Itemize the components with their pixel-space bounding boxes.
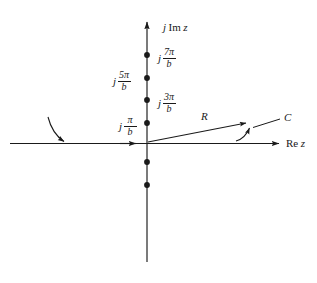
real-axis-label-z: z xyxy=(301,137,305,149)
pole-label-5pi-b-denominator: b xyxy=(121,82,128,93)
pole-label-3pi-b-fraction: 3π b xyxy=(163,92,176,114)
pole-label-5pi-b-j: j xyxy=(113,76,116,87)
pole-label-5pi-b: j 5π b xyxy=(113,70,131,92)
pole-label-pi-b: j π b xyxy=(119,115,137,137)
pole-dot-5pi-b xyxy=(144,75,150,81)
pole-dot-3pi-b xyxy=(144,97,150,103)
pole-label-3pi-b-denominator: b xyxy=(166,104,173,115)
contour-label-C: C xyxy=(284,112,291,123)
real-axis-label: Rez xyxy=(286,138,305,149)
pole-dot-lower-1 xyxy=(144,159,150,165)
imaginary-axis-label: jImz xyxy=(163,22,188,33)
pole-label-3pi-b-j: j xyxy=(158,98,161,109)
pole-dot-pi-b xyxy=(144,120,150,126)
pole-label-7pi-b-denominator: b xyxy=(166,59,173,70)
pole-label-7pi-b: j 7π b xyxy=(158,47,176,69)
pole-label-7pi-b-fraction: 7π b xyxy=(163,47,176,69)
radius-label-R: R xyxy=(201,111,208,122)
real-axis-label-op: Re xyxy=(286,137,298,149)
pole-label-3pi-b-numerator: 3π xyxy=(163,92,175,103)
pole-label-pi-b-denominator: b xyxy=(127,127,134,138)
incoming-curve-arrow xyxy=(48,117,64,142)
pole-label-3pi-b: j 3π b xyxy=(158,92,176,114)
complex-plane-diagram xyxy=(0,0,317,283)
pole-label-5pi-b-fraction: 5π b xyxy=(118,70,131,92)
pole-label-pi-b-numerator: π xyxy=(127,115,134,126)
pole-dot-lower-2 xyxy=(144,182,150,188)
radius-line-R xyxy=(148,123,246,142)
pole-label-pi-b-fraction: π b xyxy=(124,115,137,137)
imaginary-axis-label-op: Im xyxy=(169,21,181,33)
imaginary-axis-label-j: j xyxy=(163,21,166,33)
figure-canvas: jImz Rez j 7π b j 5π b j 3π b j xyxy=(0,0,317,283)
pole-label-5pi-b-numerator: 5π xyxy=(118,70,130,81)
imaginary-axis-label-z: z xyxy=(183,21,187,33)
pole-dot-7pi-b xyxy=(144,52,150,58)
pole-label-7pi-b-numerator: 7π xyxy=(163,47,175,58)
contour-hook-curve xyxy=(236,128,250,141)
pole-label-pi-b-j: j xyxy=(119,121,122,132)
contour-leader-line xyxy=(253,119,280,128)
pole-label-7pi-b-j: j xyxy=(158,53,161,64)
